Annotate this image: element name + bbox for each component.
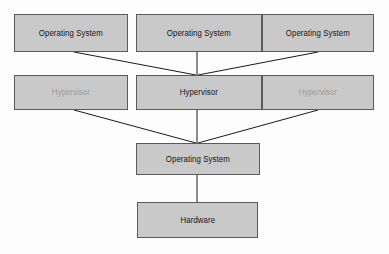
node-label: Operating System	[166, 155, 230, 164]
node-label: Hypervisor	[180, 88, 218, 97]
node-hypervisor-left: Hypervisor	[14, 75, 128, 110]
node-host-os: Operating System	[136, 143, 260, 175]
hypervisor-architecture-diagram: Operating System Operating System Operat…	[0, 0, 389, 254]
node-guest-os-right: Operating System	[262, 14, 374, 52]
connector-hypervisor-left-to-host-os	[74, 110, 196, 143]
connector-hypervisor-right-to-host-os	[198, 110, 318, 143]
node-hypervisor-center: Hypervisor	[136, 75, 262, 110]
node-label: Hypervisor	[299, 88, 337, 97]
node-hardware: Hardware	[137, 202, 258, 238]
node-guest-os-center: Operating System	[136, 14, 262, 52]
node-hypervisor-right: Hypervisor	[262, 75, 374, 110]
node-label: Operating System	[167, 29, 231, 38]
node-label: Hypervisor	[52, 88, 90, 97]
node-label: Operating System	[286, 29, 350, 38]
node-guest-os-left: Operating System	[14, 14, 128, 52]
node-label: Operating System	[39, 29, 103, 38]
node-label: Hardware	[180, 216, 215, 225]
connector-guest-os-right-to-hypervisor-center	[198, 52, 318, 75]
connector-guest-os-left-to-hypervisor-center	[74, 52, 196, 75]
